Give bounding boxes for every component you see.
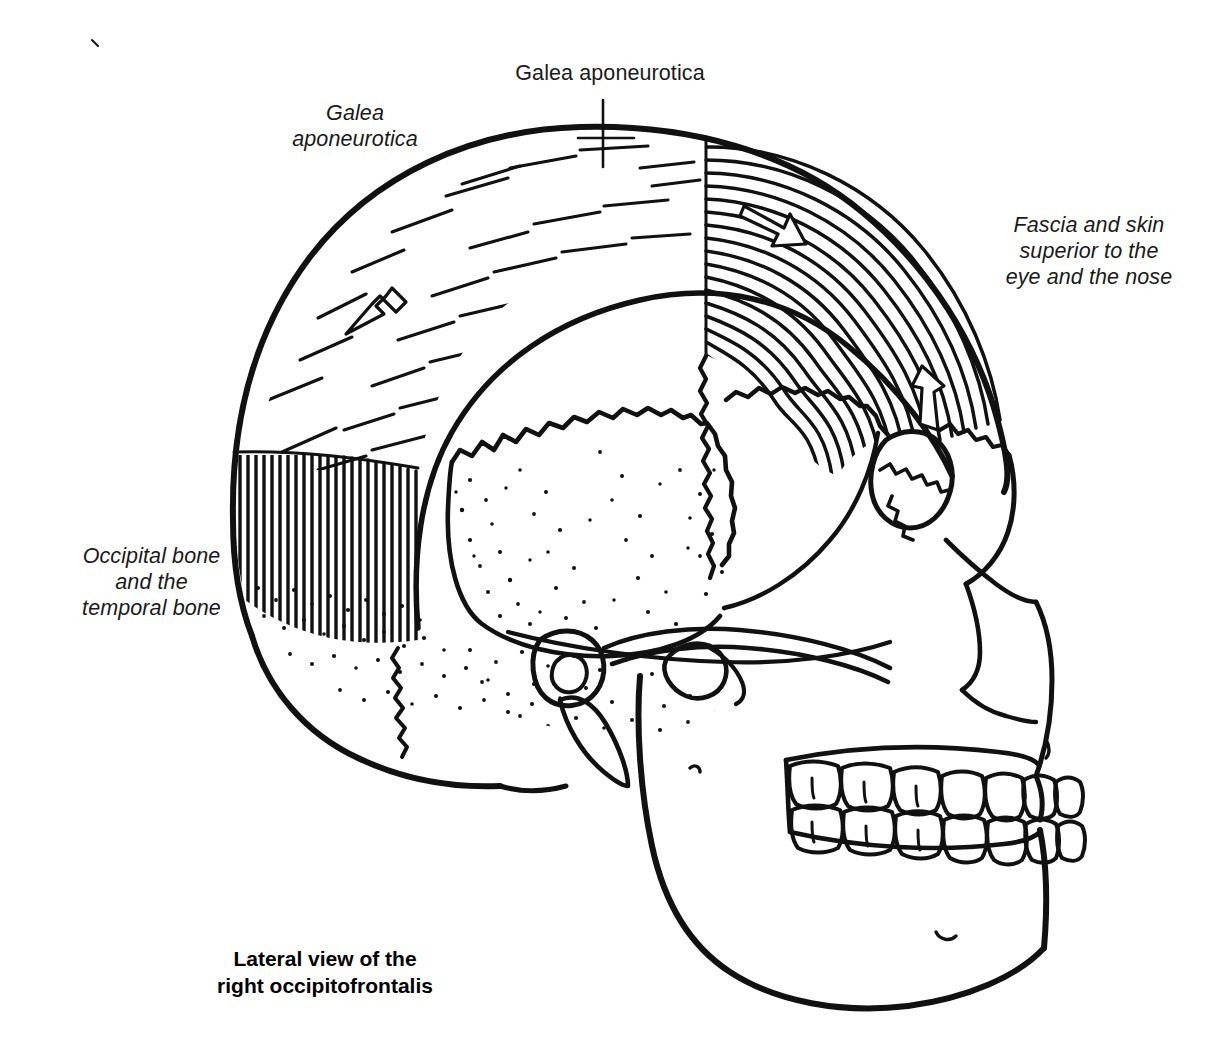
occiput-outline	[252, 636, 500, 786]
label-galea-aponeurotica-top: Galea aponeurotica	[430, 60, 790, 86]
anatomical-figure: Galea aponeurotica Galea aponeurotica Fa…	[0, 0, 1216, 1060]
label-galea-aponeurotica-left: Galea aponeurotica	[205, 100, 505, 152]
label-occipital-and-temporal-bone: Occipital bone and the temporal bone	[24, 543, 279, 622]
skull-illustration	[0, 0, 1216, 1060]
leader-line-galea	[578, 100, 634, 167]
arrow-galea-posterior	[346, 288, 406, 334]
zygomatic-arch	[604, 629, 890, 682]
figure-caption: Lateral view of the right occipitofronta…	[150, 946, 500, 999]
label-fascia-and-skin: Fascia and skin superior to the eye and …	[975, 212, 1203, 291]
facial-skeleton	[786, 424, 1052, 820]
cranial-bones	[448, 356, 890, 662]
print-mark	[92, 40, 98, 46]
galea-aponeurotica-texture	[268, 146, 700, 640]
